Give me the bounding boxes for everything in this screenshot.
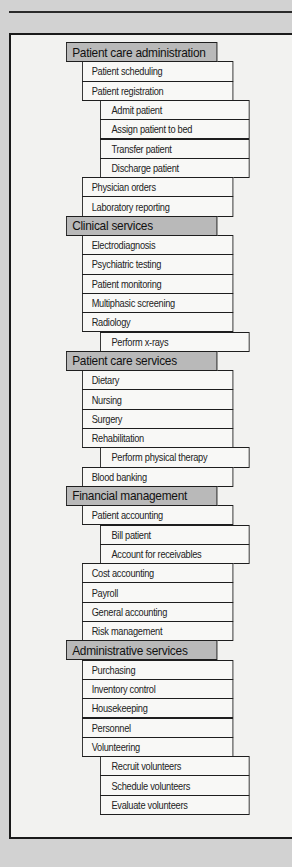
sub-function-box: Assign patient to bed xyxy=(100,119,250,139)
function-box: Personnel xyxy=(82,718,233,738)
function-box: Patient accounting xyxy=(82,505,233,525)
function-box: Patient registration xyxy=(82,81,233,101)
function-box: Blood banking xyxy=(82,467,233,487)
function-box: Cost accounting xyxy=(82,563,233,583)
sub-function-box: Admit patient xyxy=(100,100,250,120)
function-box: Payroll xyxy=(82,582,233,602)
function-box: Psychiatric testing xyxy=(82,254,233,274)
function-box: Patient scheduling xyxy=(82,61,233,81)
function-box: Radiology xyxy=(82,312,233,332)
function-box: Surgery xyxy=(82,409,233,429)
function-box: Volunteering xyxy=(82,737,233,757)
sub-function-box: Transfer patient xyxy=(100,139,250,159)
sub-function-box: Perform x-rays xyxy=(100,332,250,352)
sub-function-box: Bill patient xyxy=(100,525,250,545)
function-box: General accounting xyxy=(82,602,233,622)
sub-function-box: Schedule volunteers xyxy=(100,775,250,795)
section-header: Clinical services xyxy=(66,216,217,236)
function-box: Rehabilitation xyxy=(82,428,233,448)
sub-function-box: Evaluate volunteers xyxy=(100,795,250,815)
function-box: Housekeeping xyxy=(82,698,233,718)
function-box: Nursing xyxy=(82,389,233,409)
function-box: Patient monitoring xyxy=(82,274,233,294)
function-box: Dietary xyxy=(82,370,233,390)
sub-function-box: Recruit volunteers xyxy=(100,756,250,776)
top-rule xyxy=(9,11,292,13)
function-box: Electrodiagnosis xyxy=(82,235,233,255)
sub-function-box: Account for receivables xyxy=(100,544,250,564)
function-box: Laboratory reporting xyxy=(82,196,233,216)
section-header: Administrative services xyxy=(66,640,217,660)
sub-function-box: Perform physical therapy xyxy=(100,447,250,467)
section-header: Patient care administration xyxy=(66,42,217,62)
section-header: Patient care services xyxy=(66,351,217,371)
function-box: Inventory control xyxy=(82,679,233,699)
section-header: Financial management xyxy=(66,486,217,506)
function-box: Risk management xyxy=(82,621,233,641)
function-box: Purchasing xyxy=(82,660,233,680)
function-box: Physician orders xyxy=(82,177,233,197)
function-box: Multiphasic screening xyxy=(82,293,233,313)
sub-function-box: Discharge patient xyxy=(100,158,250,178)
